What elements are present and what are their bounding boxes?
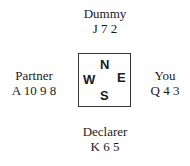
west-hand: Partner A 10 9 8 [0, 68, 68, 98]
east-player-label: You [140, 68, 190, 83]
east-cards: Q 4 3 [140, 83, 190, 98]
north-player-label: Dummy [70, 6, 140, 21]
west-player-label: Partner [0, 68, 68, 83]
compass-west-label: W [83, 73, 95, 86]
compass-south-label: S [100, 89, 109, 102]
compass-north-label: N [100, 58, 109, 71]
north-cards: J 7 2 [70, 21, 140, 36]
west-cards: A 10 9 8 [0, 83, 68, 98]
south-player-label: Declarer [68, 124, 142, 139]
south-cards: K 6 5 [68, 139, 142, 154]
compass-box: N W E S [78, 53, 131, 107]
compass-east-label: E [117, 71, 126, 84]
north-hand: Dummy J 7 2 [70, 6, 140, 36]
east-hand: You Q 4 3 [140, 68, 190, 98]
south-hand: Declarer K 6 5 [68, 124, 142, 154]
